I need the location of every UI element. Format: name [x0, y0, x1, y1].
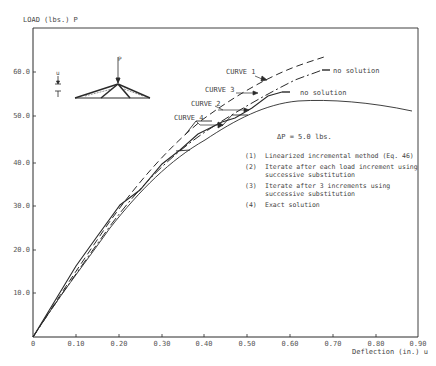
- inset-deflection-u-label: u: [56, 69, 60, 77]
- y-tick-label: 60.0: [2, 68, 30, 76]
- legend-number: (4): [245, 201, 265, 209]
- x-tick-label: 0.80: [361, 340, 391, 348]
- legend-text: Iterate after each load increment using: [265, 163, 418, 171]
- y-tick-label: 20.0: [2, 246, 30, 254]
- x-axis-label: Deflection (in.) u: [352, 348, 428, 356]
- delta-p-annotation: ΔP = 5.0 lbs.: [277, 133, 332, 141]
- y-tick-label: 10.0: [2, 289, 30, 297]
- deflection-u-indicator: [55, 76, 61, 97]
- y-tick-label: 50.0: [2, 112, 30, 120]
- curve-2-label: CURVE 2: [191, 100, 221, 108]
- x-tick-label: 0.70: [318, 340, 348, 348]
- no-solution-label-curve-2: no solution: [300, 89, 346, 97]
- x-tick-label: 0.50: [232, 340, 262, 348]
- legend-text: Linearized incremental method (Eq. 46): [265, 152, 414, 160]
- legend-item-2: (2)Iterate after each load increment usi…: [245, 163, 418, 179]
- legend-text: successive substitution: [265, 171, 355, 179]
- legend-number: (3): [245, 182, 265, 190]
- x-tick-label: 0.40: [189, 340, 219, 348]
- legend-number: (1): [245, 152, 265, 160]
- curve-2-iterate-each-increment: [33, 92, 282, 337]
- y-tick-label: 40.0: [2, 159, 30, 167]
- x-tick-label: 0.10: [61, 340, 91, 348]
- legend-text: successive substitution: [265, 190, 355, 198]
- y-tick-label: 30.0: [2, 202, 30, 210]
- truss-inset-diagram: [75, 57, 150, 98]
- curve-3-label: CURVE 3: [205, 86, 235, 94]
- x-tick-label: 0.30: [147, 340, 177, 348]
- legend-number: (2): [245, 163, 265, 171]
- legend-item-3: (3)Iterate after 3 increments usingsucce…: [245, 182, 390, 198]
- x-tick-label: 0: [18, 340, 48, 348]
- x-tick-label: 0.90: [403, 340, 433, 348]
- no-solution-label-curve-3: no solution: [333, 67, 379, 75]
- y-axis-label: LOAD (lbs.) P: [23, 16, 78, 24]
- x-tick-label: 0.20: [104, 340, 134, 348]
- legend-text: Iterate after 3 increments using: [265, 182, 390, 190]
- legend-item-1: (1)Linearized incremental method (Eq. 46…: [245, 152, 414, 160]
- inset-load-p-label: P: [118, 55, 122, 63]
- legend-item-4: (4)Exact solution: [245, 201, 320, 209]
- curve-1-label: CURVE 1: [226, 68, 256, 76]
- curve-4-exact-solution: [33, 100, 412, 337]
- curve-4-label: CURVE 4: [174, 114, 204, 122]
- x-tick-label: 0.60: [275, 340, 305, 348]
- legend-text: Exact solution: [265, 201, 320, 209]
